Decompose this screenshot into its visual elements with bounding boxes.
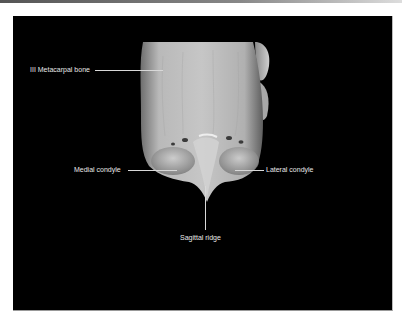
image-panel: III Metacarpal bone Medial condyle Later… [13,16,393,311]
label-metacarpal-bone: III Metacarpal bone [30,66,90,74]
bone-render [13,16,392,310]
label-medial-condyle: Medial condyle [74,166,121,174]
label-sagittal-ridge: Sagittal ridge [180,234,221,242]
label-lateral-condyle: Lateral condyle [266,166,313,174]
top-rule [0,0,402,3]
leader-line-sagittal-ridge [205,186,206,230]
leader-line-lateral-condyle [235,170,264,171]
leader-line-metacarpal [95,70,163,71]
leader-line-medial-condyle [128,170,177,171]
